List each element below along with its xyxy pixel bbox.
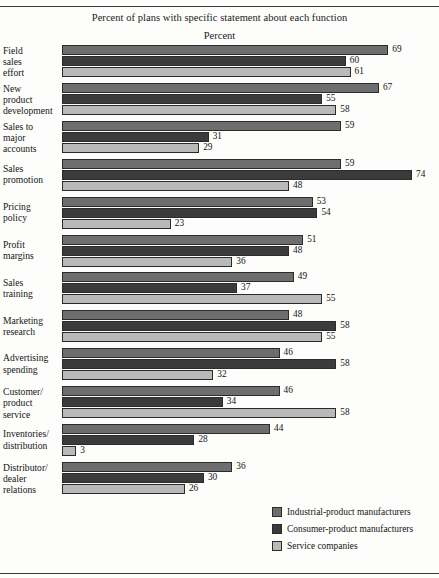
bar-value-label: 58 [340, 320, 349, 331]
bar-2 [62, 408, 336, 418]
bar-value-label: 67 [383, 82, 392, 93]
bar-value-label: 31 [213, 131, 222, 142]
bar-value-label: 46 [284, 385, 293, 396]
chart-plot-area: Fieldsaleseffort696061Newproductdevelopm… [0, 45, 439, 500]
bar-1 [62, 359, 336, 369]
bar-0 [62, 310, 289, 320]
bar-value-label: 58 [340, 407, 349, 418]
bar-2 [62, 181, 289, 191]
category-label: Inventories/distribution [3, 428, 60, 450]
bar-value-label: 55 [326, 93, 335, 104]
bar-value-label: 34 [227, 396, 236, 407]
bar-0 [62, 197, 313, 207]
bar-1 [62, 246, 289, 256]
bar-1 [62, 208, 317, 218]
bar-1 [62, 170, 412, 180]
bar-value-label: 29 [203, 142, 212, 153]
bar-2 [62, 294, 322, 304]
legend-label: Consumer-product manufacturers [287, 524, 413, 534]
bar-2 [62, 332, 322, 342]
bar-0 [62, 235, 303, 245]
bar-value-label: 30 [208, 472, 217, 483]
bar-value-label: 60 [350, 55, 359, 66]
bar-1 [62, 283, 237, 293]
chart-legend: Industrial-product manufacturersConsumer… [272, 506, 439, 557]
bar-0 [62, 348, 280, 358]
category-label: Customer/productservice [3, 386, 60, 420]
legend-swatch-icon [272, 524, 282, 534]
chart-title: Percent of plans with specific statement… [0, 12, 439, 23]
legend-swatch-icon [272, 507, 282, 517]
bar-value-label: 59 [345, 158, 354, 169]
category-label: Sales tomajoraccounts [3, 121, 60, 155]
bar-value-label: 48 [293, 309, 302, 320]
bar-0 [62, 462, 232, 472]
bar-1 [62, 397, 223, 407]
bar-1 [62, 473, 204, 483]
bar-0 [62, 386, 280, 396]
bar-1 [62, 94, 322, 104]
bar-1 [62, 321, 336, 331]
bar-1 [62, 132, 209, 142]
bar-value-label: 58 [340, 358, 349, 369]
bar-2 [62, 370, 213, 380]
legend-label: Industrial-product manufacturers [287, 507, 411, 517]
category-label: Pricingpolicy [3, 201, 60, 223]
category-label: Salespromotion [3, 163, 60, 185]
bar-2 [62, 257, 232, 267]
bar-value-label: 48 [293, 180, 302, 191]
bar-2 [62, 67, 351, 77]
legend-item: Service companies [272, 540, 439, 552]
bar-0 [62, 83, 379, 93]
bar-value-label: 37 [241, 282, 250, 293]
bar-value-label: 48 [293, 245, 302, 256]
bar-value-label: 59 [345, 120, 354, 131]
category-label: Salestraining [3, 277, 60, 299]
bottom-divider-rule [0, 573, 439, 574]
category-label: Newproductdevelopment [3, 83, 60, 117]
bar-value-label: 61 [355, 66, 364, 77]
bar-value-label: 36 [236, 256, 245, 267]
bar-0 [62, 424, 270, 434]
bar-value-label: 54 [321, 207, 330, 218]
bar-0 [62, 272, 294, 282]
bar-0 [62, 159, 341, 169]
bar-2 [62, 105, 336, 115]
bar-value-label: 69 [392, 44, 401, 55]
bar-value-label: 53 [317, 196, 326, 207]
top-divider-rule [0, 6, 439, 7]
legend-label: Service companies [287, 541, 358, 551]
bar-value-label: 49 [298, 271, 307, 282]
bar-0 [62, 45, 388, 55]
bar-1 [62, 435, 194, 445]
bar-2 [62, 446, 76, 456]
bar-2 [62, 219, 171, 229]
bar-value-label: 44 [274, 423, 283, 434]
axis-caption: Percent [0, 30, 439, 41]
category-label: Advertisingspending [3, 352, 60, 374]
bar-0 [62, 121, 341, 131]
category-label: Distributor/dealerrelations [3, 462, 60, 496]
legend-item: Consumer-product manufacturers [272, 523, 439, 535]
bar-value-label: 32 [217, 369, 226, 380]
bar-value-label: 51 [307, 234, 316, 245]
bar-value-label: 74 [416, 169, 425, 180]
bar-1 [62, 56, 346, 66]
bar-value-label: 28 [198, 434, 207, 445]
bar-2 [62, 143, 199, 153]
bar-value-label: 55 [326, 331, 335, 342]
bar-value-label: 26 [189, 483, 198, 494]
category-label: Profitmargins [3, 239, 60, 261]
bar-value-label: 58 [340, 104, 349, 115]
bar-value-label: 3 [80, 445, 85, 456]
bar-value-label: 55 [326, 293, 335, 304]
category-label: Marketingresearch [3, 315, 60, 337]
bar-2 [62, 484, 185, 494]
bar-value-label: 36 [236, 461, 245, 472]
bar-value-label: 46 [284, 347, 293, 358]
legend-swatch-icon [272, 541, 282, 551]
bar-value-label: 23 [175, 218, 184, 229]
category-label: Fieldsaleseffort [3, 45, 60, 79]
legend-item: Industrial-product manufacturers [272, 506, 439, 518]
